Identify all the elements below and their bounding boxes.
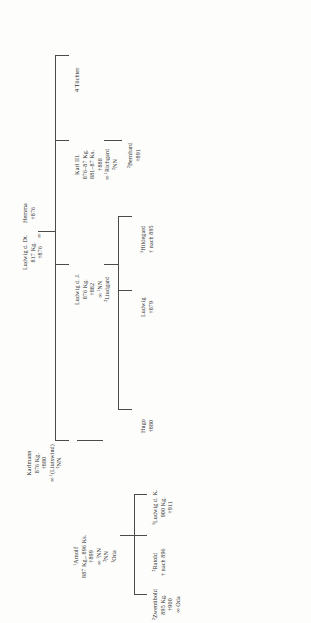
node-hildegard: ³Hildegard † nach 895 [140,225,155,253]
connector-arnolf-spine [120,535,135,536]
karlmann-reign: 876 Kg. [34,444,42,482]
zwentibold-reign: 895 Kg. [160,589,168,620]
node-zwentibold: ²Zwentibold 895 Kg. †900 ∞ Oda [152,589,182,620]
karl3-spouse-2: ²NN [112,149,120,180]
hildegard-death: † nach 895 [148,225,156,253]
hugo-name: Hugo [140,419,148,433]
spine-ludwig-j [118,264,119,410]
ludwig-k-death: †911 [167,489,175,525]
arnolf-spouse-2: ²NN [103,535,111,578]
spine-hildegard-up [118,216,119,265]
zwentibold-name: ²Zwentibold [152,589,160,620]
bernhard-name: ²Bernhard [127,143,135,168]
arnolf-reign: 887 Kg., 896 Ks. [81,535,89,578]
connector-couple-to-spine [38,231,56,232]
spine-main [55,55,56,440]
node-karlmann: Karlmann 876 Kg. †880 ∞ ¹(Liutswind) ²NN [26,444,64,482]
arnolf-spouse-3: ³Oda [111,535,119,578]
ludwig-dt-name: Ludwig d. Dt. [22,235,30,271]
connector-to-hildegard [118,216,132,217]
tochter-label: 4 Töchter [74,68,82,92]
hugo-death: †880 [148,419,156,433]
node-hemma: Hemma †876 [22,203,37,223]
arnolf-spouse-1: ∞ ¹NN [96,535,104,578]
connector-to-hugo [118,409,132,410]
ludwig-k-name: ³Ludwig d. K. [152,489,160,525]
node-ludwig-dt: Ludwig d. Dt. 817 Kg. †876 [22,235,45,271]
ludwig-dt-death: †876 [37,235,45,271]
ludwig-k-reign: 900 Kg. [160,489,168,525]
connector-to-ludwig-j [55,264,69,265]
connector-karlmann-arnolf [77,440,103,441]
node-hugo: Hugo †880 [140,419,155,433]
connector-to-ludwig-k [134,494,147,495]
ratold-name: ²Ratold [152,548,160,576]
karlmann-spouse-1: ∞ ¹(Liutswind) [49,444,57,482]
arnolf-death: †899 [88,535,96,578]
node-ludwig-879: Ludwig †879 [140,297,155,317]
node-ratold: ²Ratold † nach 896 [152,548,167,576]
node-karl-iii: Karl III. 876–87 Kg. 881–87 Ks. †888 ∞ ¹… [74,149,120,180]
karl3-death: †888 [97,149,105,180]
ludwig-dt-reign: 817 Kg. [30,235,38,271]
node-ludwig-d-j: Ludwig d. J. 876 Kg. †882 ∞ ¹NN ²Liudgar… [74,273,112,305]
bernhard-death: †891 [135,143,143,168]
karlmann-death: †880 [41,444,49,482]
karl3-reign-kg: 876–87 Kg. [82,149,90,180]
node-4-tochter: 4 Töchter [74,68,82,92]
ludwig879-name: Ludwig [140,297,148,317]
karl3-name: Karl III. [74,149,82,180]
marriage-symbol-ludwig-hemma: ∞ [36,234,44,238]
connector-to-karlmann [55,440,69,441]
ratold-death: † nach 896 [160,548,168,576]
ludwig-j-spouse-2: ²Liudgard [104,273,112,305]
karlmann-spouse-2: ²NN [56,444,64,482]
karlmann-name: Karlmann [26,444,34,482]
hildegard-name: ³Hildegard [140,225,148,253]
karl3-spouse-1: ∞ ¹Richgard [104,149,112,180]
node-bernhard: ²Bernhard †891 [127,143,142,168]
zwentibold-death: †900 [167,589,175,620]
connector-to-zwentibold [134,594,147,595]
infinity-icon: ∞ [36,234,44,238]
hemma-death: †876 [30,203,38,223]
zwentibold-spouse: ∞ Oda [175,589,183,620]
karl3-reign-ks: 881–87 Ks. [89,149,97,180]
connector-karl3-bernhard [104,140,122,141]
ludwig-j-name: Ludwig d. J. [74,273,82,305]
connector-to-ratold [134,535,147,536]
spine-arnolf [134,494,135,594]
node-arnolf: ¹Arnolf 887 Kg., 896 Ks. †899 ∞ ¹NN ²NN … [73,535,119,578]
arnolf-name: ¹Arnolf [73,535,81,578]
ludwig879-death: †879 [148,297,156,317]
connector-to-ludwig879 [118,290,132,291]
ludwig-j-spouse-1: ∞ ¹NN [97,273,105,305]
connector-to-karl3 [55,140,69,141]
node-ludwig-d-k: ³Ludwig d. K. 900 Kg. †911 [152,489,175,525]
ludwig-j-death: †882 [89,273,97,305]
hemma-name: Hemma [22,203,30,223]
ludwig-j-reign: 876 Kg. [82,273,90,305]
connector-to-tochter [55,55,69,56]
connector-ludwig-j-spine [104,264,119,265]
genealogy-chart: Ludwig d. Dt. 817 Kg. †876 ∞ Hemma †876 … [0,0,311,623]
